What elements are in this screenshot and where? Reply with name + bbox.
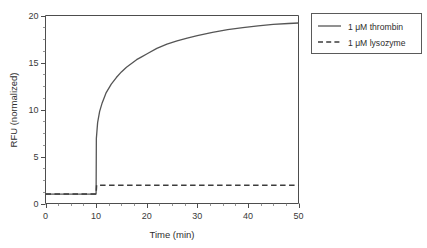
y-axis-tick-labels: 05101520 bbox=[28, 11, 38, 209]
y-tick-label: 0 bbox=[33, 199, 38, 209]
x-tick-label: 30 bbox=[192, 211, 202, 221]
x-axis-title: Time (min) bbox=[149, 229, 194, 240]
legend-box bbox=[312, 14, 422, 54]
plot-frame bbox=[46, 16, 299, 204]
series-lysozyme-line bbox=[46, 185, 299, 194]
x-tick-label: 10 bbox=[91, 211, 101, 221]
y-tick-label: 5 bbox=[33, 152, 38, 162]
x-tick-label: 20 bbox=[142, 211, 152, 221]
y-axis-ticks bbox=[41, 17, 46, 205]
x-tick-label: 40 bbox=[243, 211, 253, 221]
line-chart: 05101520 01020304050 Time (min) RFU (nor… bbox=[0, 0, 427, 248]
y-tick-label: 15 bbox=[28, 58, 38, 68]
legend-label-lysozyme: 1 μM lysozyme bbox=[348, 38, 406, 48]
data-series-group bbox=[46, 23, 299, 194]
y-axis-title: RFU (normalized) bbox=[8, 73, 19, 148]
series-thrombin-line bbox=[46, 23, 299, 194]
y-tick-label: 10 bbox=[28, 105, 38, 115]
chart-figure: 05101520 01020304050 Time (min) RFU (nor… bbox=[0, 0, 427, 248]
legend-label-thrombin: 1 μM thrombin bbox=[348, 22, 403, 32]
x-tick-label: 50 bbox=[293, 211, 303, 221]
x-axis-tick-labels: 01020304050 bbox=[43, 211, 304, 221]
legend: 1 μM thrombin 1 μM lysozyme bbox=[312, 14, 422, 54]
x-axis-ticks bbox=[47, 204, 300, 209]
x-tick-label: 0 bbox=[43, 211, 48, 221]
y-tick-label: 20 bbox=[28, 11, 38, 21]
